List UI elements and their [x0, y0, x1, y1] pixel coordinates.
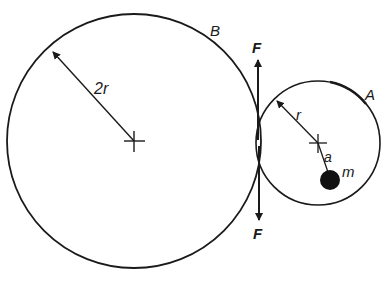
label-m: m [342, 163, 355, 180]
circle-a [256, 81, 380, 205]
label-force-top: F [252, 39, 262, 56]
label-a-circle: A [364, 86, 375, 103]
label-2r: 2r [93, 80, 109, 97]
label-b: B [210, 22, 220, 39]
mass-m [320, 170, 340, 190]
diagram-canvas: B 2r A r a m F F [0, 0, 388, 286]
label-r: r [296, 106, 302, 123]
circle-b [7, 14, 261, 268]
label-offset-a: a [324, 149, 332, 165]
label-force-bottom: F [253, 225, 263, 242]
